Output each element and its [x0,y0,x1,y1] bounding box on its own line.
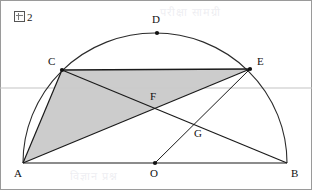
point-label-A: A [14,168,22,179]
point-label-C: C [48,56,55,67]
point-marker-D [155,31,159,35]
segment-chord-CE [62,69,250,70]
geometry-figure-root: विज्ञान प्रश्न परीक्षा सामग्री 2 A B C D… [0,0,312,190]
point-label-D: D [152,14,160,25]
point-marker-E [248,67,252,71]
point-label-F: F [150,91,156,102]
point-marker-O [153,161,157,165]
point-marker-C [60,68,64,72]
cjk-box-icon [14,11,25,22]
point-label-B: B [291,168,298,179]
figure-caption-number: 2 [27,11,33,23]
point-label-G: G [194,128,202,139]
figure-caption: 2 [14,11,33,23]
point-label-O: O [150,168,158,179]
point-label-E: E [257,56,264,67]
